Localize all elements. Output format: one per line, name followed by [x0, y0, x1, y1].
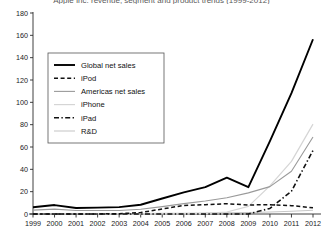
x-tick-label: 2005	[154, 219, 170, 228]
y-tick-label: 60	[20, 143, 28, 152]
x-tick-label: 2009	[240, 219, 256, 228]
y-tick-label: 120	[16, 76, 28, 85]
x-tick-label: 2012	[305, 219, 321, 228]
legend-label-americas-net-sales: Americas net sales	[81, 87, 145, 96]
y-tick-label: 140	[16, 53, 28, 62]
x-tick-label: 2006	[176, 219, 192, 228]
y-axis: 020406080100120140160180	[16, 9, 33, 219]
x-tick-label: 2011	[284, 219, 299, 228]
legend-label-global-net-sales: Global net sales	[81, 61, 136, 70]
y-tick-label: 180	[16, 9, 28, 18]
x-tick-label: 2007	[197, 219, 213, 228]
x-tick-label: 2010	[262, 219, 278, 228]
chart-figure: Apple Inc. revenue, segment and product …	[0, 0, 323, 236]
x-tick-label: 2002	[90, 219, 106, 228]
chart-canvas: 020406080100120140160180 199920002001200…	[0, 0, 323, 236]
x-tick-label: 2008	[219, 219, 235, 228]
series-line-americas-net-sales	[33, 137, 313, 211]
x-tick-label: 1999	[25, 219, 41, 228]
legend-label-ipad: iPad	[81, 114, 96, 123]
y-tick-label: 100	[16, 98, 28, 107]
x-tick-label: 2003	[111, 219, 127, 228]
y-tick-label: 80	[20, 120, 28, 129]
legend-label-r-d: R&D	[81, 127, 98, 136]
x-tick-label: 2004	[133, 219, 149, 228]
x-tick-label: 2001	[68, 219, 84, 228]
legend-label-ipod: iPod	[81, 74, 96, 83]
y-tick-label: 20	[20, 187, 28, 196]
y-tick-label: 40	[20, 165, 28, 174]
y-tick-label: 160	[16, 31, 28, 40]
x-axis: 1999200020012002200320042005200620072008…	[25, 214, 321, 228]
x-tick-label: 2000	[47, 219, 63, 228]
y-tick-label: 0	[24, 210, 28, 219]
legend-label-iphone: iPhone	[81, 100, 105, 109]
chart-legend: Global net salesiPodAmericas net salesiP…	[48, 53, 164, 143]
